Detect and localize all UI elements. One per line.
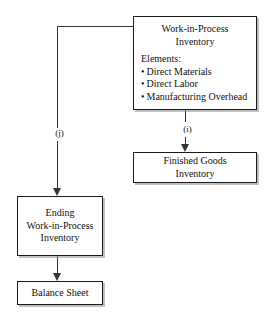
wip-element-label: Direct Materials: [147, 66, 212, 77]
wip-element-item: •Manufacturing Overhead: [141, 91, 249, 104]
arrowhead-to-balance-sheet: [53, 273, 61, 281]
bullet-icon: •: [141, 66, 145, 77]
wip-title-line2: Inventory: [141, 36, 249, 49]
bullet-icon: •: [141, 91, 145, 102]
edge-label-to-ending-wip: (j): [48, 128, 71, 139]
ending-wip-line2: Work-in-Process: [27, 220, 94, 233]
wip-title-line1: Work-in-Process: [141, 23, 249, 36]
diagram-canvas: (j) (i) Work-in-Process Inventory Elemen…: [0, 0, 274, 319]
wip-element-item: •Direct Labor: [141, 78, 249, 91]
bullet-icon: •: [141, 78, 145, 89]
wip-element-label: Manufacturing Overhead: [147, 91, 248, 102]
finished-goods-line1: Finished Goods: [163, 155, 226, 168]
node-work-in-process-inventory[interactable]: Work-in-Process Inventory Elements: •Dir…: [133, 16, 257, 110]
wip-elements-heading: Elements:: [141, 53, 249, 66]
finished-goods-line2: Inventory: [176, 168, 215, 181]
node-ending-work-in-process-inventory[interactable]: Ending Work-in-Process Inventory: [17, 196, 103, 256]
arrowhead-to-ending-wip: [53, 188, 61, 196]
ending-wip-line1: Ending: [46, 207, 75, 220]
wip-element-item: •Direct Materials: [141, 66, 249, 79]
node-balance-sheet[interactable]: Balance Sheet: [17, 281, 103, 305]
ending-wip-line3: Inventory: [41, 232, 80, 245]
connector-ending-to-balance-vertical: [57, 256, 59, 273]
connector-wip-to-ending-vertical-lower: [57, 141, 59, 188]
wip-element-label: Direct Labor: [147, 78, 198, 89]
connector-wip-to-ending-vertical-upper: [57, 26, 59, 130]
edge-label-to-finished-goods: (i): [176, 124, 199, 135]
connector-wip-to-fg-vertical-upper: [185, 110, 187, 122]
balance-sheet-label: Balance Sheet: [32, 287, 89, 300]
node-finished-goods-inventory[interactable]: Finished Goods Inventory: [133, 152, 257, 183]
connector-wip-to-ending-horizontal: [57, 26, 133, 28]
arrowhead-to-finished-goods: [181, 144, 189, 152]
